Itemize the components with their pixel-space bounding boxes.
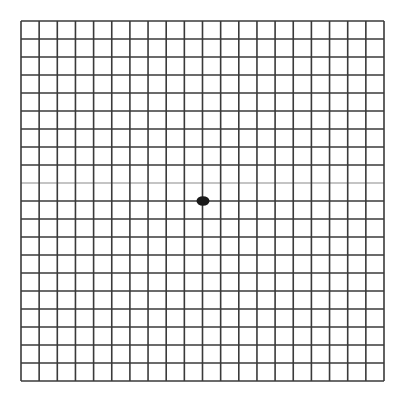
amsler-grid: [0, 0, 402, 401]
grid-canvas: [0, 0, 402, 401]
center-fixation-dot: [197, 196, 210, 206]
